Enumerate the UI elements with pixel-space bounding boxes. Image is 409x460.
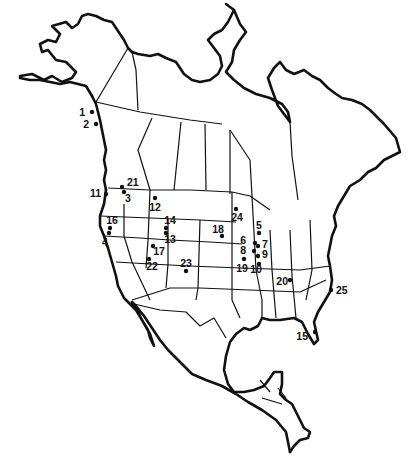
site-label: 20 — [276, 275, 288, 287]
site-dot-icon — [288, 278, 292, 282]
site-label: 10 — [250, 263, 262, 275]
site-marker-20: 20 — [276, 275, 292, 287]
site-marker-12: 12 — [149, 196, 161, 213]
us-col-7 — [270, 230, 276, 318]
us-col-8 — [290, 230, 296, 318]
site-dot-icon — [104, 192, 108, 196]
yukon-nwt-border — [132, 52, 138, 110]
site-markers-layer: 1234567891011121314151617181920212223242… — [79, 106, 348, 342]
site-marker-13: 13 — [164, 231, 176, 245]
bc-line — [96, 102, 222, 124]
site-marker-23: 23 — [180, 257, 192, 273]
site-label: 19 — [236, 262, 248, 274]
site-marker-14: 14 — [164, 214, 176, 230]
north-america-map: 1234567891011121314151617181920212223242… — [0, 0, 409, 460]
site-dot-icon — [257, 231, 261, 235]
prov-2 — [174, 122, 181, 190]
site-dot-icon — [90, 110, 94, 114]
site-label: 4 — [102, 236, 108, 248]
site-dot-icon — [94, 122, 98, 126]
prov-1 — [138, 118, 152, 190]
site-label: 3 — [125, 192, 131, 204]
site-marker-2: 2 — [83, 118, 98, 130]
site-label: 15 — [296, 330, 308, 342]
us-row-4 — [132, 280, 326, 300]
site-marker-10: 10 — [250, 262, 262, 275]
site-label: 23 — [180, 257, 192, 269]
site-dot-icon — [120, 185, 124, 189]
ontario-quebec — [290, 122, 298, 200]
site-marker-21: 21 — [120, 176, 139, 189]
manitoba-ontario — [230, 130, 252, 196]
site-dot-icon — [256, 244, 260, 248]
site-marker-16: 16 — [106, 214, 118, 230]
aleutian-coast — [20, 78, 92, 96]
site-label: 25 — [336, 284, 348, 296]
site-dot-icon — [153, 196, 157, 200]
alaska-coast — [20, 4, 234, 82]
hudson-bay-coast — [224, 10, 400, 452]
coastline-layer — [20, 4, 400, 452]
site-label: 22 — [146, 260, 158, 272]
site-marker-3: 3 — [122, 190, 131, 204]
site-label: 14 — [164, 214, 176, 226]
site-marker-22: 22 — [146, 257, 158, 272]
site-marker-18: 18 — [212, 223, 224, 238]
site-label: 21 — [127, 176, 139, 188]
site-marker-9: 9 — [256, 248, 268, 260]
site-label: 8 — [240, 244, 246, 256]
site-label: 11 — [90, 187, 101, 199]
site-dot-icon — [184, 269, 188, 273]
site-marker-17: 17 — [151, 244, 165, 257]
site-label: 12 — [149, 201, 161, 213]
site-marker-5: 5 — [256, 219, 262, 235]
alaska-canada-border — [96, 48, 128, 102]
site-label: 9 — [262, 248, 268, 260]
site-label: 2 — [83, 118, 89, 130]
site-label: 5 — [256, 219, 262, 231]
site-label: 24 — [231, 211, 243, 223]
site-marker-19: 19 — [236, 257, 248, 274]
us-col-9 — [306, 220, 312, 300]
site-dot-icon — [107, 231, 111, 235]
prov-3 — [205, 124, 206, 190]
site-label: 1 — [79, 106, 85, 118]
canada-us-border — [108, 188, 270, 210]
site-marker-1: 1 — [79, 106, 94, 118]
site-dot-icon — [313, 330, 317, 334]
site-dot-icon — [256, 254, 260, 258]
site-dot-icon — [252, 249, 256, 253]
site-label: 13 — [164, 233, 176, 245]
site-label: 18 — [212, 223, 224, 235]
site-dot-icon — [164, 226, 168, 230]
site-marker-8: 8 — [240, 244, 256, 256]
site-dot-icon — [108, 226, 112, 230]
site-marker-15: 15 — [296, 330, 317, 342]
site-label: 16 — [106, 214, 118, 226]
site-marker-24: 24 — [231, 207, 243, 223]
site-dot-icon — [329, 288, 333, 292]
site-dot-icon — [242, 257, 246, 261]
alaska-panhandle — [92, 96, 106, 190]
site-label: 17 — [153, 245, 165, 257]
